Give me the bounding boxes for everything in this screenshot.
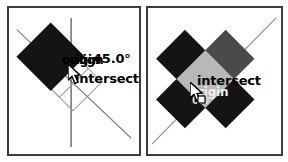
right-viewport-canvas: [148, 8, 281, 154]
left-viewport-canvas: [9, 8, 139, 154]
screenshot-root: origin align 45.0° intersect intersect o…: [0, 0, 288, 162]
left-viewport[interactable]: origin align 45.0° intersect: [7, 6, 141, 156]
filled-diamond[interactable]: [16, 22, 85, 91]
right-viewport[interactable]: intersect origin 0.0: [146, 6, 283, 156]
